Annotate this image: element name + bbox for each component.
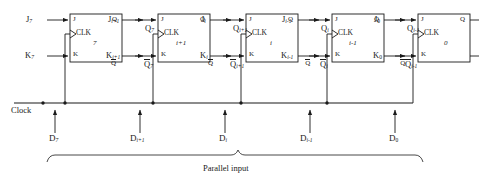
clock-dot-i — [239, 101, 242, 104]
d-label-0: D0 — [389, 134, 398, 144]
output-label-q-i+1: Qi+1 — [233, 24, 247, 34]
output-label-qbar-i+1: Qi+1 — [230, 60, 244, 70]
input-label-k-i+1: Ki+1 — [106, 51, 120, 61]
port-k-7: K — [73, 51, 78, 58]
ff-number-0: 0 — [444, 40, 448, 47]
parallel-input-label: Parallel input — [203, 164, 249, 173]
port-k-i: K — [249, 51, 254, 58]
input-label-j-0: J0 — [374, 15, 380, 25]
input-label-k-i: Ki — [200, 51, 208, 61]
clock-dot-7 — [63, 101, 66, 104]
output-label-qbar-i: Qi — [320, 60, 328, 70]
ff-number-7: 7 — [93, 40, 97, 47]
input-label-j-i-1: Ji-1 — [282, 15, 291, 25]
port-j-i+1: J — [161, 16, 164, 23]
input-label-j-7: J7 — [26, 15, 32, 25]
input-label-k-i-1: Ki-1 — [281, 51, 293, 61]
clock-dot-source — [41, 101, 44, 104]
port-k-i-1: K — [335, 51, 340, 58]
port-clk-i: CLK — [252, 29, 267, 37]
input-label-j-i: Ji — [201, 15, 206, 25]
port-k-0: K — [421, 51, 426, 58]
d-label-7: D7 — [49, 134, 58, 144]
port-j-7: J — [73, 16, 76, 23]
clock-dot-i+1 — [151, 101, 154, 104]
ff-number-i-1: i-1 — [349, 40, 357, 47]
ff-number-i: i — [270, 40, 272, 47]
port-clk-7: CLK — [76, 29, 91, 37]
input-label-j-i+1: Ji+1 — [108, 15, 119, 25]
output-label-qbar-7: Q7 — [144, 60, 153, 70]
input-label-k-7: K7 — [25, 51, 34, 61]
port-q-0: Q — [460, 16, 465, 23]
clock-label: Clock — [11, 106, 31, 115]
port-k-i+1: K — [161, 51, 166, 58]
output-label-q-7: Q7 — [145, 24, 154, 34]
port-j-i: J — [249, 16, 252, 23]
port-qbar-i: Q — [305, 60, 310, 67]
port-clk-0: CLK — [424, 29, 439, 37]
input-label-k-0: K0 — [373, 51, 382, 61]
port-qbar-i+1: Q — [208, 60, 213, 67]
parallel-input-brace — [47, 150, 423, 162]
clock-dot-i-1 — [325, 101, 328, 104]
d-label-i-1: Di-1 — [300, 134, 313, 144]
port-j-0: J — [421, 16, 424, 23]
output-label-q-i: Qi — [321, 24, 329, 34]
port-clk-i+1: CLK — [164, 29, 179, 37]
shift-register-diagram: J7 K7 J K CLK 7 Q Q Q7 Q7 Ji+1 Ki+1 J K … — [0, 0, 479, 180]
d-label-i+1: Di+1 — [130, 134, 145, 144]
d-label-i: Di — [219, 134, 227, 144]
port-clk-i-1: CLK — [338, 29, 353, 37]
output-label-q-i-1: Qi-1 — [407, 24, 419, 34]
port-j-i-1: J — [335, 16, 338, 23]
ff-number-i+1: i+1 — [176, 40, 186, 47]
port-qbar-7: Q — [111, 60, 116, 67]
output-label-qbar-i-1: Qi-1 — [405, 60, 417, 70]
